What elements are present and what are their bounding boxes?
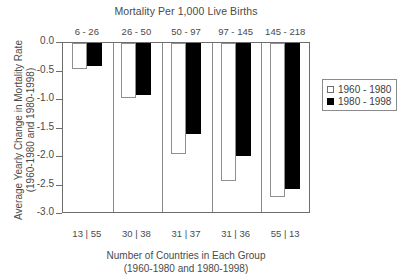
chart-legend: 1960 - 19801980 - 1998 [322,79,397,111]
x-axis-title-line-1: Number of Countries in Each Group [62,250,310,261]
bar [87,43,102,66]
legend-swatch-icon [327,98,334,105]
legend-item-label: 1960 - 1980 [338,84,391,95]
legend-item-label: 1980 - 1998 [338,96,391,107]
bar [171,43,186,154]
y-axis-tick [56,213,62,214]
x-axis-title-line-2: (1960-1980 and 1980-1998) [62,263,310,274]
y-axis-tick-label: -3.0 [14,206,54,217]
y-axis-tick-label: 0.0 [14,35,54,46]
legend-swatch-icon [327,86,334,93]
x-axis-group-count-label: 30 | 38 [112,228,162,239]
group-separator [162,43,163,212]
x-axis-group-label: 6 - 26 [62,26,112,37]
y-axis-tick-label: -1.0 [14,92,54,103]
y-axis-tick-label: -1.5 [14,121,54,132]
bar [72,43,87,69]
x-axis-group-label: 145 - 218 [260,26,310,37]
bar-chart-figure: Mortality Per 1,000 Live Births Average … [0,0,409,279]
bar [186,43,201,134]
x-axis-group-label: 97 - 145 [211,26,261,37]
bar [236,43,251,156]
x-axis-group-label: 50 - 97 [161,26,211,37]
y-axis-tick-label: -2.5 [14,178,54,189]
x-axis-group-count-label: 31 | 36 [211,228,261,239]
x-axis-group-count-label: 13 | 55 [62,228,112,239]
bar [285,43,300,189]
legend-item: 1980 - 1998 [327,95,391,107]
legend-item: 1960 - 1980 [327,83,391,95]
x-axis-group-label: 26 - 50 [112,26,162,37]
chart-title: Mortality Per 1,000 Live Births [62,5,310,17]
group-separator [212,43,213,212]
y-axis-tick-label: -0.5 [14,64,54,75]
bar [270,43,285,197]
group-separator [113,43,114,212]
group-separator [261,43,262,212]
x-axis-group-count-label: 55 | 13 [260,228,310,239]
plot-area [62,42,310,213]
x-axis-group-count-label: 31 | 37 [161,228,211,239]
y-axis-tick-label: -2.0 [14,149,54,160]
bar [136,43,151,95]
bar [121,43,136,98]
bar [221,43,236,181]
